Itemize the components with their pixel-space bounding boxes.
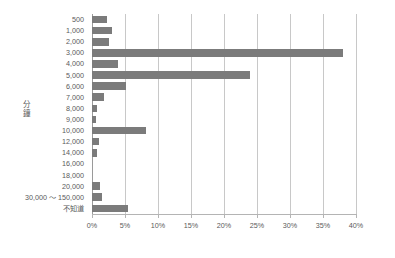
x-axis-tick-label: 0% <box>87 221 97 230</box>
bar-row <box>92 103 356 114</box>
x-axis-tick-label: 10% <box>151 221 165 230</box>
bar <box>92 49 343 57</box>
bar-row <box>92 181 356 192</box>
gridline-40% <box>356 14 357 214</box>
bar-series <box>92 14 356 214</box>
x-axis-tick-label: 20% <box>217 221 231 230</box>
category-label: 2,000 <box>0 36 88 47</box>
bar <box>92 149 97 157</box>
bar <box>92 16 107 24</box>
bar-row <box>92 114 356 125</box>
bar-row <box>92 25 356 36</box>
x-axis-tick <box>125 214 126 218</box>
category-label: 30,000 ～ 150,000 <box>0 192 88 203</box>
category-label: 8,000 <box>0 103 88 114</box>
category-axis-labels: 5001,0002,0003,0004,0005,0006,0007,0008,… <box>0 14 88 214</box>
category-label: 6,000 <box>0 81 88 92</box>
bar <box>92 116 96 124</box>
bar <box>92 93 104 101</box>
category-label: 500 <box>0 14 88 25</box>
bar-row <box>92 47 356 58</box>
bar-row <box>92 203 356 214</box>
x-axis-tick-label: 25% <box>250 221 264 230</box>
x-axis-tick <box>224 214 225 218</box>
category-label: 10,000 <box>0 125 88 136</box>
category-label: 3,000 <box>0 47 88 58</box>
x-axis-tick-label: 30% <box>283 221 297 230</box>
x-axis-tick <box>191 214 192 218</box>
x-axis-tick <box>356 214 357 218</box>
category-label: 16,000 <box>0 158 88 169</box>
bar-row <box>92 36 356 47</box>
bar-row <box>92 170 356 181</box>
bar <box>92 127 146 135</box>
bar-row <box>92 158 356 169</box>
bar-row <box>92 70 356 81</box>
bar-row <box>92 125 356 136</box>
bar <box>92 82 126 90</box>
x-axis-tick-label: 5% <box>120 221 130 230</box>
x-axis-tick-label: 15% <box>184 221 198 230</box>
category-label: 1,000 <box>0 25 88 36</box>
bar <box>92 105 97 113</box>
category-label: 4,000 <box>0 58 88 69</box>
bar <box>92 60 118 68</box>
bar-row <box>92 14 356 25</box>
bar-row <box>92 92 356 103</box>
x-axis-tick-label: 35% <box>316 221 330 230</box>
bar <box>92 182 100 190</box>
category-label: 5,000 <box>0 70 88 81</box>
x-axis-tick-label: 40% <box>349 221 363 230</box>
bar <box>92 205 128 213</box>
category-label: 20,000 <box>0 181 88 192</box>
x-axis-tick <box>323 214 324 218</box>
bar-row <box>92 147 356 158</box>
bar-row <box>92 81 356 92</box>
category-label: 18,000 <box>0 170 88 181</box>
bar <box>92 138 99 146</box>
category-label: 14,000 <box>0 147 88 158</box>
x-axis-tick <box>257 214 258 218</box>
bar-row <box>92 58 356 69</box>
plot-area <box>92 14 356 214</box>
category-label: 9,000 <box>0 114 88 125</box>
category-label: 7,000 <box>0 92 88 103</box>
bar-row <box>92 136 356 147</box>
bar <box>92 27 112 35</box>
category-label: 不知道 <box>0 203 88 214</box>
category-label: 12,000 <box>0 136 88 147</box>
x-axis-tick <box>158 214 159 218</box>
bar-row <box>92 192 356 203</box>
x-axis-tick <box>290 214 291 218</box>
x-axis-tick <box>92 214 93 218</box>
bar <box>92 38 109 46</box>
bar <box>92 193 102 201</box>
bar <box>92 71 250 79</box>
bar-chart: 分鐘 5001,0002,0003,0004,0005,0006,0007,00… <box>0 0 395 258</box>
